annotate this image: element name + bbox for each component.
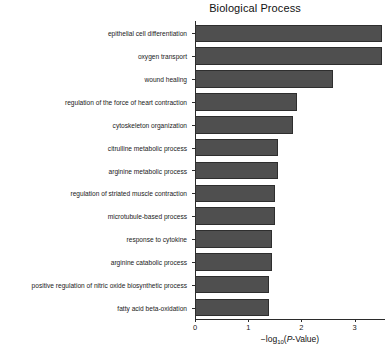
chart-title: Biological Process — [175, 2, 335, 14]
y-axis-tick — [192, 216, 195, 217]
y-axis-tick-label: regulation of the force of heart contrac… — [65, 98, 187, 105]
y-axis-tick-label: microtubule-based process — [108, 213, 187, 220]
bar — [195, 207, 275, 225]
y-axis-tick — [192, 193, 195, 194]
x-axis-spine — [195, 319, 385, 320]
y-axis-tick — [192, 285, 195, 286]
bar — [195, 253, 272, 271]
bar — [195, 299, 269, 317]
y-axis-tick-label: response to cytokine — [127, 236, 187, 243]
y-axis-tick-label: fatty acid beta-oxidation — [117, 304, 187, 311]
x-axis-tick-label: 3 — [353, 323, 357, 332]
bar — [195, 162, 278, 180]
y-axis-tick — [192, 125, 195, 126]
x-axis-tick-label: 0 — [193, 323, 197, 332]
bar — [195, 230, 272, 248]
bar — [195, 93, 297, 111]
y-axis-tick — [192, 170, 195, 171]
x-axis-tick-label: 1 — [246, 323, 250, 332]
x-axis-label-prefix: −log — [261, 334, 277, 344]
bar — [195, 70, 333, 88]
y-axis-tick — [192, 79, 195, 80]
y-axis-tick-label: citrulline metabolic process — [108, 144, 187, 151]
bar — [195, 25, 382, 43]
y-axis-tick-label: positive regulation of nitric oxide bios… — [32, 281, 187, 288]
y-axis-labels: epithelial cell differentiationoxygen tr… — [0, 22, 187, 319]
y-axis-tick — [192, 102, 195, 103]
y-axis-tick-label: cytoskeleton organization — [113, 121, 187, 128]
x-axis-tick — [301, 319, 302, 322]
x-axis-tick — [248, 319, 249, 322]
y-axis-tick-label: arginine metabolic process — [109, 167, 187, 174]
y-axis-tick-label: regulation of striated muscle contractio… — [70, 190, 187, 197]
x-axis-label-suffix: -Value) — [292, 334, 319, 344]
bar — [195, 116, 293, 134]
x-axis-tick — [355, 319, 356, 322]
y-axis-tick — [192, 148, 195, 149]
y-axis-tick — [192, 239, 195, 240]
y-axis-tick — [192, 33, 195, 34]
y-axis-tick — [192, 262, 195, 263]
bar — [195, 185, 275, 203]
bar — [195, 139, 278, 157]
x-axis-tick — [195, 319, 196, 322]
plot-area — [195, 22, 385, 319]
y-axis-tick — [192, 308, 195, 309]
y-axis-tick-label: wound healing — [144, 76, 187, 83]
y-axis-tick — [192, 56, 195, 57]
x-axis-label-subscript: 10 — [277, 339, 284, 345]
x-axis-label: −log10(P-Value) — [261, 334, 319, 345]
y-axis-tick-label: epithelial cell differentiation — [108, 30, 187, 37]
bar-chart-figure: Biological Process epithelial cell diffe… — [0, 0, 392, 353]
x-axis-tick-label: 2 — [299, 323, 303, 332]
bar — [195, 47, 382, 65]
bar — [195, 276, 269, 294]
y-axis-tick-label: arginine catabolic process — [111, 258, 187, 265]
y-axis-tick-label: oxygen transport — [138, 53, 187, 60]
